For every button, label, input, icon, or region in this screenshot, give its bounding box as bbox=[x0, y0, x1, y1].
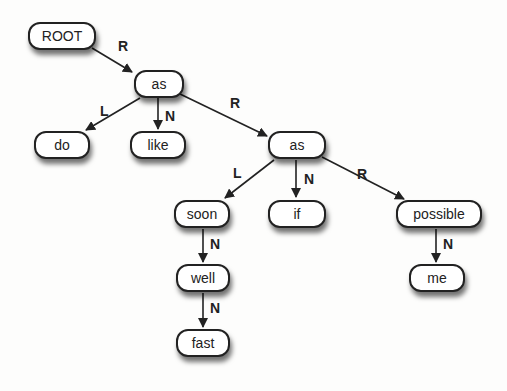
tree-node-well: well bbox=[176, 264, 230, 292]
tree-node-possible: possible bbox=[396, 200, 482, 228]
edge-label: L bbox=[233, 165, 242, 181]
tree-node-if: if bbox=[268, 200, 326, 228]
edge-label: N bbox=[165, 108, 175, 124]
tree-node-like: like bbox=[130, 131, 186, 159]
edge-label: L bbox=[100, 103, 109, 119]
tree-node-fast: fast bbox=[176, 329, 230, 357]
edge-label: R bbox=[357, 166, 367, 182]
tree-node-soon: soon bbox=[174, 200, 230, 228]
edge-label: N bbox=[304, 171, 314, 187]
edge-as1-as2 bbox=[180, 94, 267, 136]
tree-node-root: ROOT bbox=[28, 22, 96, 50]
edge-label: N bbox=[210, 236, 220, 252]
edge-label: R bbox=[118, 38, 128, 54]
dependency-tree-diagram: ROOTasdolikeassoonifpossiblewellmefast R… bbox=[0, 0, 507, 391]
tree-node-as2: as bbox=[268, 131, 326, 159]
tree-node-as1: as bbox=[134, 70, 184, 98]
edge-layer bbox=[0, 0, 507, 391]
tree-node-do: do bbox=[34, 131, 90, 159]
edge-label: R bbox=[230, 95, 240, 111]
edge-label: N bbox=[210, 300, 220, 316]
edge-as1-do bbox=[86, 98, 140, 130]
edge-label: N bbox=[443, 236, 453, 252]
tree-node-me: me bbox=[409, 264, 465, 292]
